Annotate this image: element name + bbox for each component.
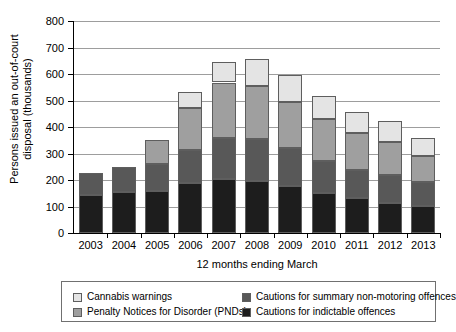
bar-segment [345,198,369,233]
legend-item: Cannabis warnings [73,292,172,302]
bar-segment [178,92,202,108]
legend: Cannabis warningsCautions for summary no… [61,281,436,322]
y-tick-label: 700 [34,43,64,54]
x-tick-mark [207,234,208,238]
bar-segment [245,181,269,233]
y-tick-mark [68,127,73,128]
bar-segment [245,86,269,140]
bar-segment [278,186,302,233]
x-tick-mark [440,234,441,238]
bar-segment [312,161,336,193]
legend-swatch [242,308,251,317]
bar-segment [278,75,302,102]
y-tick-mark [68,21,73,22]
x-axis-title: 12 months ending March [74,258,440,270]
y-tick-label: 800 [34,16,64,27]
legend-swatch [242,293,251,302]
bar-2004 [112,21,136,233]
x-tick-label: 2013 [403,239,443,251]
bar-segment [145,191,169,233]
bar-segment [112,167,136,192]
bar-segment [212,83,236,139]
bar-2010 [312,21,336,233]
y-tick-mark [68,207,73,208]
legend-label: Cannabis warnings [87,292,172,302]
y-axis-title: Persons issued an out-of-court disposal … [8,14,34,204]
y-tick-mark [68,180,73,181]
bar-2007 [212,21,236,233]
bar-segment [145,140,169,164]
bar-2003 [79,21,103,233]
bar-segment [278,148,302,186]
bar-2013 [411,21,435,233]
bar-segment [79,195,103,233]
y-tick-label: 500 [34,96,64,107]
plot-area [74,21,440,233]
x-tick-mark [407,234,408,238]
bar-segment [178,183,202,233]
x-tick-mark [107,234,108,238]
bar-segment [145,164,169,191]
bar-segment [378,121,402,142]
bar-segment [345,112,369,132]
y-tick-label: 300 [34,149,64,160]
bar-segment [411,138,435,156]
bar-2008 [245,21,269,233]
legend-label: Cautions for indictable offences [256,307,395,317]
bar-segment [212,62,236,82]
bar-2009 [278,21,302,233]
bar-segment [378,203,402,233]
bar-segment [345,133,369,170]
legend-label: Cautions for summary non-motoring offenc… [256,292,456,302]
bar-segment [79,173,103,194]
bar-segment [278,102,302,148]
y-tick-label: 100 [34,202,64,213]
bar-segment [212,138,236,179]
y-tick-mark [68,74,73,75]
y-tick-mark [68,154,73,155]
x-tick-mark [274,234,275,238]
y-tick-label: 0 [34,228,64,239]
bar-segment [178,108,202,150]
x-tick-mark [373,234,374,238]
bar-2012 [378,21,402,233]
bar-segment [411,156,435,182]
legend-item: Cautions for indictable offences [242,307,395,317]
y-tick-mark [68,233,73,234]
legend-item: Cautions for summary non-motoring offenc… [242,292,456,302]
y-tick-label: 600 [34,69,64,80]
y-tick-label: 400 [34,122,64,133]
bar-segment [378,142,402,175]
bar-segment [245,59,269,85]
bar-2011 [345,21,369,233]
x-tick-mark [340,234,341,238]
x-tick-mark [240,234,241,238]
bar-segment [378,175,402,203]
bar-2005 [145,21,169,233]
y-tick-mark [68,101,73,102]
bar-segment [178,150,202,183]
y-tick-mark [68,48,73,49]
bar-segment [312,96,336,119]
bar-segment [411,206,435,233]
legend-label: Penalty Notices for Disorder (PNDs) [87,307,247,317]
bar-segment [411,182,435,206]
bar-segment [345,170,369,199]
legend-swatch [73,308,82,317]
x-tick-mark [174,234,175,238]
bar-segment [245,139,269,180]
x-axis-line [73,233,441,234]
x-tick-mark [141,234,142,238]
bar-segment [312,119,336,161]
bar-segment [112,192,136,233]
bar-segment [312,193,336,233]
top-caption-sliver [0,0,451,6]
legend-item: Penalty Notices for Disorder (PNDs) [73,307,247,317]
legend-swatch [73,293,82,302]
bar-2006 [178,21,202,233]
bar-segment [212,179,236,233]
y-tick-label: 200 [34,175,64,186]
x-tick-mark [307,234,308,238]
